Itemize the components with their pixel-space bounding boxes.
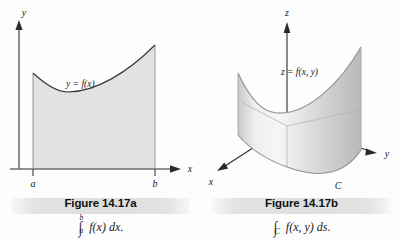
y-axis-arrowhead — [15, 20, 22, 30]
formula-terminator-a: . — [120, 220, 123, 234]
x-axis-label: x — [208, 176, 214, 187]
figure-b-caption: Figure 14.17b ∫Cf(x, y)ds. — [201, 196, 402, 243]
y-axis-arrowhead — [365, 148, 377, 155]
figure-panel-a: y x a b y = f(x) Figure 14.17a ∫baf(x)dx… — [0, 0, 201, 243]
integral-path-subscript-b: C — [274, 226, 280, 236]
figure-panel-b: z x y z = f(x, y) C Figure 14.17b ∫Cf(x,… — [201, 0, 402, 243]
figure-page: y x a b y = f(x) Figure 14.17a ∫baf(x)dx… — [0, 0, 403, 243]
figure-a-caption: Figure 14.17a ∫baf(x)dx. — [0, 196, 201, 243]
curve-function-label: y = f(x) — [65, 79, 95, 90]
y-axis-label: y — [384, 148, 390, 159]
x-axis-label: x — [187, 163, 193, 174]
figure-a-caption-formula: ∫baf(x)dx. — [0, 216, 201, 236]
tick-label-a: a — [31, 178, 36, 189]
integral-upper-limit-a: b — [79, 214, 83, 222]
figure-b-caption-formula: ∫Cf(x, y)ds. — [201, 216, 402, 236]
figure-b-plot: z x y z = f(x, y) C — [201, 0, 402, 196]
x-axis-arrowhead — [217, 163, 228, 171]
differential-b: ds — [317, 220, 328, 234]
figure-a-caption-title: Figure 14.17a — [0, 197, 201, 209]
figure-a-plot: y x a b y = f(x) — [0, 0, 201, 196]
z-axis-label: z — [284, 7, 289, 18]
integral-limits-a: ba — [79, 218, 83, 233]
tick-label-b: b — [153, 178, 158, 189]
z-axis-arrowhead — [284, 22, 291, 33]
y-axis-label: y — [21, 7, 27, 18]
differential-a: dx — [109, 220, 120, 234]
formula-terminator-b: . — [328, 220, 331, 234]
surface-function-label: z = f(x, y) — [280, 67, 318, 78]
shaded-region — [33, 45, 155, 169]
figure-b-caption-title: Figure 14.17b — [201, 197, 402, 209]
integrand-b: f(x, y) — [286, 220, 314, 234]
integral-lower-limit-a: a — [79, 227, 83, 235]
base-curve-label: C — [335, 180, 342, 191]
integrand-a: f(x) — [89, 220, 106, 234]
x-axis-arrowhead — [170, 165, 181, 173]
